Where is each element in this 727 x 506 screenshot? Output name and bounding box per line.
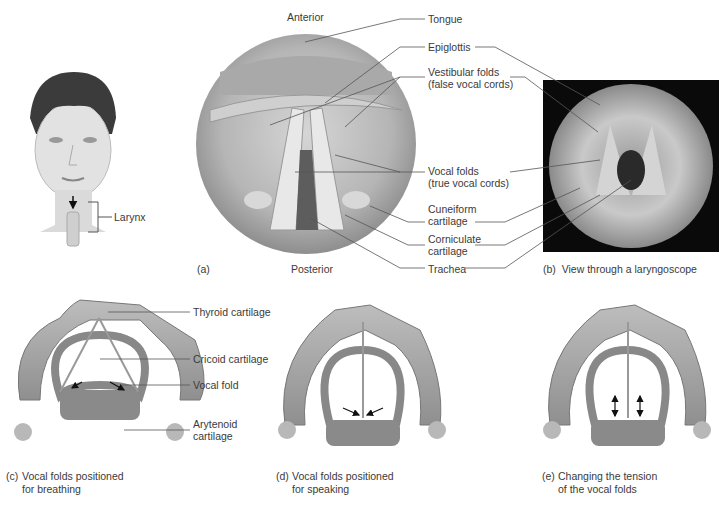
posterior-label: Posterior bbox=[291, 263, 333, 275]
larynx-superior-view-illustration bbox=[196, 34, 416, 254]
panel-c-caption-line1: Vocal folds positioned bbox=[22, 470, 124, 482]
cartilage-tension-illustration bbox=[543, 305, 711, 446]
panel-b-caption: (b) View through a laryngoscope bbox=[543, 263, 697, 275]
arytenoid-cartilage-label: Arytenoid bbox=[193, 418, 237, 430]
panel-d-caption-line1: Vocal folds positioned bbox=[292, 470, 394, 482]
corniculate-sublabel: cartilage bbox=[428, 245, 468, 257]
cartilage-speaking-illustration bbox=[278, 305, 446, 446]
panel-b-caption-text: View through a laryngoscope bbox=[562, 263, 697, 275]
cricoid-cartilage-label: Cricoid cartilage bbox=[193, 353, 268, 365]
panel-e-caption-line2: of the vocal folds bbox=[542, 483, 657, 496]
vestibular-folds-sublabel: (false vocal cords) bbox=[428, 78, 513, 90]
epiglottis-label: Epiglottis bbox=[428, 41, 471, 53]
cartilage-breathing-illustration bbox=[14, 300, 204, 441]
thyroid-cartilage-label: Thyroid cartilage bbox=[193, 306, 271, 318]
cuneiform-sublabel: cartilage bbox=[428, 215, 468, 227]
panel-e-caption: (e)Changing the tension of the vocal fol… bbox=[542, 470, 657, 495]
anterior-label: Anterior bbox=[287, 11, 324, 23]
corniculate-label: Corniculate bbox=[428, 233, 481, 245]
panel-c-caption: (c)Vocal folds positioned for breathing bbox=[6, 470, 124, 495]
head-illustration bbox=[30, 72, 116, 246]
vocal-folds-label: Vocal folds bbox=[428, 165, 479, 177]
trachea-label: Trachea bbox=[428, 263, 466, 275]
vestibular-folds-label: Vestibular folds bbox=[428, 66, 499, 78]
panel-c-tag: (c) bbox=[6, 470, 22, 483]
panel-a-tag: (a) bbox=[197, 263, 210, 275]
panel-c-caption-line2: for breathing bbox=[6, 483, 124, 496]
laryngoscope-photo bbox=[543, 80, 719, 252]
cuneiform-label: Cuneiform bbox=[428, 203, 476, 215]
vocal-fold-label: Vocal fold bbox=[193, 379, 239, 391]
panel-b-tag: (b) bbox=[543, 263, 556, 275]
tongue-label: Tongue bbox=[428, 13, 462, 25]
panel-d-tag: (d) bbox=[276, 470, 292, 483]
diagram-graphics bbox=[0, 0, 727, 506]
panel-e-tag: (e) bbox=[542, 470, 558, 483]
panel-d-caption: (d)Vocal folds positioned for speaking bbox=[276, 470, 394, 495]
panel-e-caption-line1: Changing the tension bbox=[558, 470, 657, 482]
larynx-label: Larynx bbox=[114, 211, 146, 223]
arytenoid-cartilage-sublabel: cartilage bbox=[193, 430, 233, 442]
vocal-folds-sublabel: (true vocal cords) bbox=[428, 177, 509, 189]
panel-d-caption-line2: for speaking bbox=[276, 483, 394, 496]
